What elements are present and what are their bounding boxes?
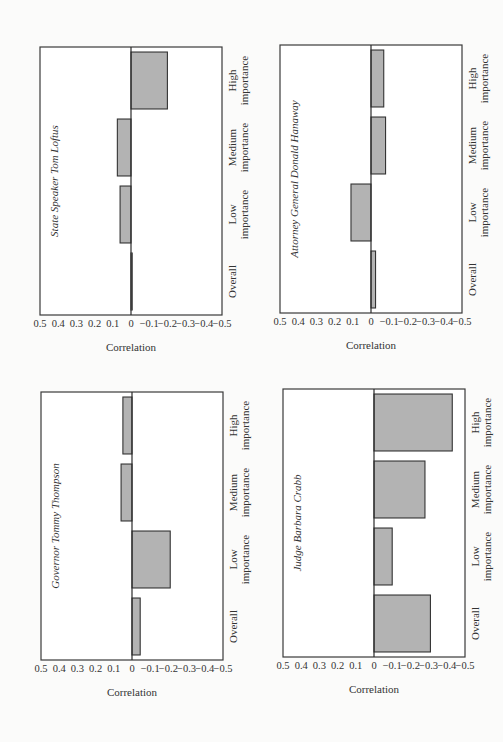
y-tick-label: −0.4 (194, 318, 214, 329)
bar (117, 119, 131, 176)
bar (371, 50, 384, 107)
y-tick-label: 0.1 (346, 316, 359, 327)
category-label: Medium (469, 470, 481, 508)
y-tick-label: −0.1 (141, 663, 160, 674)
y-tick-label: 0.2 (328, 316, 341, 327)
y-tick-label: 0.3 (70, 318, 83, 329)
category-label: Overall (469, 607, 481, 640)
chart-title: Attorney General Donald Hanaway (288, 100, 300, 258)
chart-title: Governor Tommy Thompson (49, 463, 61, 589)
y-tick-label: 0.1 (106, 318, 119, 329)
y-tick-label: 0.3 (71, 663, 84, 674)
bar (351, 184, 371, 241)
category-label: Medium (466, 126, 478, 164)
y-tick-label: 0 (129, 663, 134, 674)
category-label: High (466, 67, 478, 90)
y-tick-label: −0.1 (383, 660, 402, 671)
chart-title: State Speaker Tom Loftus (48, 125, 60, 237)
category-label: importance (481, 398, 493, 448)
y-tick-label: 0.2 (331, 660, 344, 671)
y-axis-label: Correlation (349, 683, 400, 695)
y-tick-label: −0.2 (401, 660, 420, 671)
y-tick-label: −0.2 (158, 318, 177, 329)
y-tick-label: −0.4 (437, 660, 457, 671)
y-tick-label: 0.2 (89, 663, 102, 674)
y-tick-label: 0.4 (53, 663, 67, 674)
category-label: Overall (466, 263, 478, 296)
y-tick-label: 0.1 (107, 663, 120, 674)
y-tick-label: 0.1 (349, 660, 362, 671)
y-tick-label: −0.5 (455, 660, 474, 671)
chart-panel-crabb: Judge Barbara Crabb0.50.40.30.20.10−0.1−… (233, 379, 503, 707)
y-tick-label: 0 (128, 318, 133, 329)
category-label: importance (478, 54, 490, 104)
category-label: importance (481, 465, 493, 515)
chart-panel-thompson: Governor Tommy Thompson0.50.40.30.20.10−… (0, 382, 263, 710)
y-tick-label: −0.5 (212, 318, 231, 329)
bar (374, 461, 425, 518)
y-tick-label: 0.2 (88, 318, 101, 329)
y-tick-label: 0.4 (295, 660, 309, 671)
bar (120, 186, 131, 243)
y-tick-label: −0.2 (398, 316, 417, 327)
y-tick-label: 0.5 (273, 316, 286, 327)
y-tick-label: −0.5 (452, 316, 471, 327)
category-label: High (469, 411, 481, 434)
y-tick-label: 0.4 (52, 318, 66, 329)
y-tick-label: 0 (371, 660, 376, 671)
category-label: importance (478, 188, 490, 238)
y-tick-label: −0.5 (213, 663, 232, 674)
y-tick-label: 0.5 (33, 318, 46, 329)
y-tick-label: −0.3 (419, 660, 438, 671)
bar (132, 531, 170, 588)
y-tick-label: −0.3 (416, 316, 435, 327)
y-axis-label: Correlation (107, 686, 158, 698)
y-tick-label: −0.1 (380, 316, 399, 327)
y-axis-label: Correlation (346, 339, 397, 351)
bar (371, 117, 386, 174)
y-tick-label: 0.5 (34, 663, 47, 674)
y-tick-label: −0.3 (177, 663, 196, 674)
bar (374, 528, 392, 585)
y-axis-label: Correlation (106, 341, 157, 353)
bar (123, 397, 132, 454)
y-tick-label: −0.2 (159, 663, 178, 674)
y-tick-label: 0.4 (292, 316, 306, 327)
y-tick-label: 0.3 (310, 316, 323, 327)
y-tick-label: −0.4 (434, 316, 454, 327)
y-tick-label: 0.3 (313, 660, 326, 671)
category-label: importance (481, 532, 493, 582)
y-tick-label: −0.4 (195, 663, 215, 674)
category-label: importance (478, 121, 490, 171)
bar (121, 464, 132, 521)
category-label: Low (469, 546, 481, 566)
bar (132, 598, 140, 655)
bar (131, 52, 167, 109)
y-tick-label: −0.1 (140, 318, 159, 329)
y-tick-label: −0.3 (176, 318, 195, 329)
chart-panel-hanaway: Attorney General Donald Hanaway0.50.40.3… (230, 35, 502, 363)
y-tick-label: 0.5 (276, 660, 289, 671)
category-label: Low (466, 202, 478, 222)
bar (374, 394, 452, 451)
chart-title: Judge Barbara Crabb (291, 474, 303, 572)
y-tick-label: 0 (368, 316, 373, 327)
bar (374, 595, 430, 652)
bar (371, 251, 376, 308)
chart-panel-loftus: State Speaker Tom Loftus0.50.40.30.20.10… (0, 37, 262, 365)
